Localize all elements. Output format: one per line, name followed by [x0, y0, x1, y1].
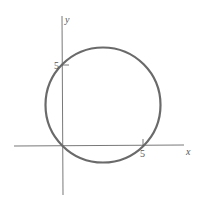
y-axis-label: y	[64, 14, 70, 25]
x-tick-label: 5	[140, 148, 145, 159]
x-axis	[14, 145, 184, 146]
diagram: y x 5 5	[0, 0, 201, 202]
x-axis-label: x	[185, 146, 191, 157]
y-axis	[62, 16, 63, 195]
y-tick-label: 5	[54, 60, 59, 71]
